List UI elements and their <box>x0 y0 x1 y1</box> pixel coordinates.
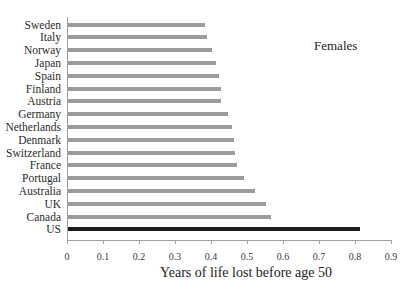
chart: SwedenItalyNorwayJapanSpainFinlandAustri… <box>0 0 411 290</box>
y-category-label: Germany <box>18 108 61 120</box>
x-tick-mark <box>67 240 68 244</box>
bar-uk <box>68 202 266 206</box>
bar-canada <box>68 215 271 219</box>
y-category-label: Spain <box>35 70 61 82</box>
x-tick-label: 0.8 <box>340 251 370 262</box>
y-category-label: Canada <box>27 211 61 223</box>
y-category-label: UK <box>44 198 61 210</box>
bar-sweden <box>68 23 205 27</box>
x-tick-label: 0.3 <box>160 251 190 262</box>
bar-austria <box>68 99 221 103</box>
bar-portugal <box>68 176 244 180</box>
y-category-label: Sweden <box>25 19 61 31</box>
bar-spain <box>68 74 219 78</box>
chart-annotation: Females <box>314 38 357 54</box>
bar-france <box>68 163 237 167</box>
bar-switzerland <box>68 151 235 155</box>
x-tick-label: 0 <box>52 251 82 262</box>
x-tick-mark <box>319 240 320 244</box>
x-tick-mark <box>283 240 284 244</box>
x-axis-label: Years of life lost before age 50 <box>160 265 332 281</box>
x-tick-mark <box>247 240 248 244</box>
y-category-label: Denmark <box>18 134 61 146</box>
y-category-label: Norway <box>24 44 61 56</box>
y-category-label: France <box>30 159 61 171</box>
x-tick-label: 0.6 <box>268 251 298 262</box>
x-tick-label: 0.9 <box>376 251 406 262</box>
bar-us <box>68 227 360 231</box>
bar-germany <box>68 112 228 116</box>
x-tick-mark <box>391 240 392 244</box>
bar-italy <box>68 35 207 39</box>
x-tick-mark <box>175 240 176 244</box>
x-tick-label: 0.1 <box>88 251 118 262</box>
x-tick-label: 0.4 <box>196 251 226 262</box>
y-category-label: Finland <box>26 83 61 95</box>
bar-japan <box>68 61 216 65</box>
y-category-label: US <box>46 223 61 235</box>
x-tick-mark <box>103 240 104 244</box>
x-tick-label: 0.2 <box>124 251 154 262</box>
bar-australia <box>68 189 255 193</box>
y-category-label: Austria <box>27 95 61 107</box>
bar-norway <box>68 48 212 52</box>
x-tick-label: 0.7 <box>304 251 334 262</box>
y-category-label: Japan <box>35 57 61 69</box>
bar-netherlands <box>68 125 232 129</box>
y-category-label: Italy <box>40 31 61 43</box>
bar-denmark <box>68 138 234 142</box>
x-axis-line <box>67 240 392 241</box>
x-tick-label: 0.5 <box>232 251 262 262</box>
y-category-label: Netherlands <box>5 121 61 133</box>
y-category-label: Portugal <box>22 172 61 184</box>
x-tick-mark <box>211 240 212 244</box>
y-category-label: Australia <box>19 185 61 197</box>
bar-finland <box>68 87 221 91</box>
x-tick-mark <box>355 240 356 244</box>
x-tick-mark <box>139 240 140 244</box>
y-category-label: Switzerland <box>6 147 61 159</box>
